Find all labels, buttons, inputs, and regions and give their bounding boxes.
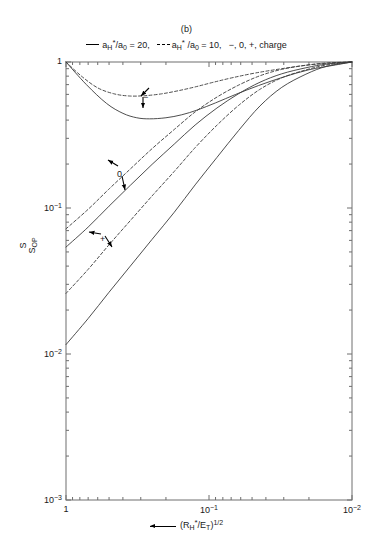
minus-annotation: −	[143, 93, 148, 102]
series-zero-dashed	[66, 62, 352, 229]
y-tick-label-0: 1	[57, 56, 62, 66]
series-plus-dashed	[66, 62, 352, 293]
y-tick-label-0-mantissa: 1	[57, 56, 62, 66]
y-tick-label-1-mantissa: 10	[44, 203, 54, 213]
zero-annotation: 0	[117, 170, 122, 179]
plot-canvas	[0, 0, 373, 552]
x-tick-label-2: 10−2	[332, 504, 372, 515]
series-minus-solid	[66, 62, 352, 119]
x-tick-label-0-mantissa: 1	[63, 504, 68, 514]
y-tick-label-1: 10−1	[44, 202, 62, 213]
series-plus-solid	[66, 62, 352, 345]
y-tick-label-2: 10−2	[44, 348, 62, 359]
x-tick-label-1: 10−1	[189, 504, 229, 515]
y-tick-label-1-exponent: −1	[54, 202, 62, 209]
y-tick-label-2-exponent: −2	[54, 348, 62, 355]
plot-frame	[66, 62, 352, 500]
x-tick-label-1-mantissa: 10	[200, 505, 210, 515]
x-tick-label-2-mantissa: 10	[343, 505, 353, 515]
y-tick-label-3-exponent: −3	[54, 494, 62, 501]
x-tick-label-2-exponent: −2	[353, 504, 361, 511]
zero-arrow-to-dashed	[108, 160, 118, 166]
x-tick-label-0: 1	[46, 504, 86, 514]
figure-panel-b: (b) aH*/a0 = 20, aH* /a0 = 10, −, 0, +, …	[0, 0, 373, 552]
series-zero-solid	[66, 62, 352, 247]
x-tick-label-1-exponent: −1	[210, 504, 218, 511]
y-tick-label-2-mantissa: 10	[44, 349, 54, 359]
plus-annotation: +	[100, 235, 105, 244]
zero-arrow-to-solid	[122, 176, 125, 190]
